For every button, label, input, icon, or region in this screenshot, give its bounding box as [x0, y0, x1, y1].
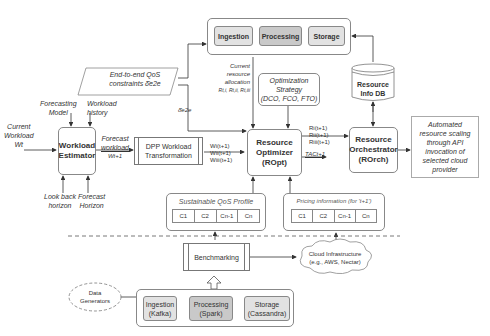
- cloud-infrastructure: Cloud Infrastructure (e.g., AWS, Nectar): [304, 250, 366, 266]
- qos-cell: Cn-1: [217, 210, 239, 222]
- resource-optimizer: Resource Optimizer (ROpt): [247, 129, 302, 176]
- top-stage-storage: Storage: [308, 26, 345, 46]
- dpp-outputs: Wi(t+1) Wii(t+1) Wiii(t+1): [210, 143, 232, 164]
- top-stage-processing: Processing: [259, 26, 302, 46]
- top-stage-ingestion: Ingestion: [214, 26, 253, 46]
- dpp-workload-transformation: DPP Workload Transformation: [134, 137, 203, 165]
- current-allocation-label: Current resource allocation Rt,i, Rt,ii,…: [210, 62, 250, 94]
- resource-info-db: Resource Info DB: [352, 80, 394, 98]
- resource-orchestrator: Resource Orchestrator (ROrch): [349, 127, 398, 173]
- qos-cell: C1: [173, 210, 195, 222]
- current-workload-label: Current Workload Wt: [4, 122, 34, 149]
- price-cell: C1: [292, 210, 313, 222]
- price-cell: Cn: [356, 210, 376, 222]
- qos-cell: C2: [195, 210, 217, 222]
- data-generators: Data Generators: [70, 289, 120, 305]
- look-back-horizon-label: Look back horizon: [44, 192, 76, 210]
- forecast-horizon-label: Forecast Horizon: [78, 192, 105, 210]
- qos-symbol: δ̄e2e: [178, 106, 191, 114]
- forecast-workload-label: Forecast workload Wt+1: [98, 134, 132, 161]
- price-cell: Cn-1: [335, 210, 356, 222]
- pricing-information: Pricing information (for 't+1') C1 C2 Cn…: [283, 193, 385, 231]
- automated-resource-scaling: Automated resource scaling through API i…: [411, 116, 479, 178]
- optimization-strategy: Optimization Strategy (DCO, FCO, FTO): [258, 73, 320, 106]
- forecasting-model-label: Forecasting Model: [40, 99, 77, 117]
- bottom-stage-processing: Processing (Spark): [189, 296, 233, 321]
- benchmarking: Benchmarking: [183, 243, 250, 271]
- workload-estimator: Workload Estimator: [58, 127, 96, 175]
- price-cell: C2: [313, 210, 334, 222]
- bottom-stage-storage: Storage (Cassandra): [244, 296, 290, 321]
- sustainable-qos-profile: Sustainable QoS Profile C1 C2 Cn-1 Cn: [166, 193, 266, 231]
- workload-history-label: Workload history: [87, 99, 117, 117]
- qos-cell: Cn: [238, 210, 259, 222]
- qos-constraints-label: End-to-end QoS constraints δ̄e2e: [100, 70, 170, 88]
- top-pipeline: Ingestion Processing Storage: [207, 18, 351, 55]
- tac-label: TACt+1: [305, 150, 325, 158]
- bottom-pipeline: Ingestion (Kafka) Processing (Spark) Sto…: [136, 289, 294, 327]
- ropt-outputs: Ri(t+1) Rii(t+1) Riii(t+1): [309, 125, 330, 146]
- bottom-stage-ingestion: Ingestion (Kafka): [143, 296, 177, 321]
